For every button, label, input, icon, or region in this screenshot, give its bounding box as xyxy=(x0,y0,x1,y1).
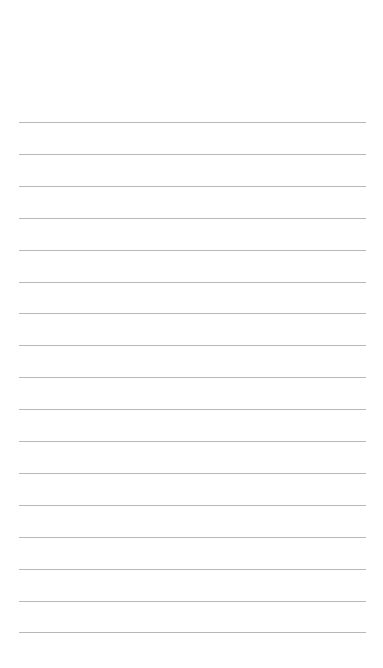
ruled-line xyxy=(19,441,366,442)
ruled-line xyxy=(19,345,366,346)
ruled-lines-area xyxy=(19,0,366,668)
ruled-line xyxy=(19,313,366,314)
ruled-line xyxy=(19,632,366,633)
ruled-line xyxy=(19,473,366,474)
ruled-line xyxy=(19,154,366,155)
ruled-line xyxy=(19,250,366,251)
ruled-line xyxy=(19,282,366,283)
ruled-line xyxy=(19,377,366,378)
ruled-line xyxy=(19,505,366,506)
ruled-line xyxy=(19,601,366,602)
ruled-line xyxy=(19,218,366,219)
ruled-line xyxy=(19,537,366,538)
ruled-line xyxy=(19,122,366,123)
ruled-line xyxy=(19,186,366,187)
ruled-line xyxy=(19,409,366,410)
ruled-line xyxy=(19,569,366,570)
